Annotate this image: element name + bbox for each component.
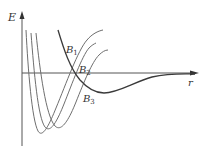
x-axis-arrow-icon	[190, 71, 199, 76]
y-axis-arrow-icon	[20, 11, 25, 19]
curve-dissociative	[58, 30, 195, 93]
label-b2: B2	[78, 64, 91, 77]
y-axis	[20, 11, 25, 146]
y-axis-label: E	[7, 11, 16, 24]
potential-energy-diagram: E r B1 B2 B3	[0, 0, 209, 152]
label-b3: B3	[82, 93, 95, 106]
x-axis-label: r	[188, 77, 194, 88]
